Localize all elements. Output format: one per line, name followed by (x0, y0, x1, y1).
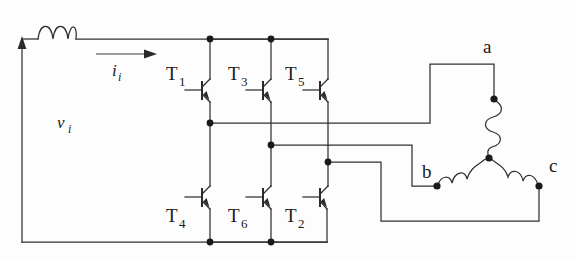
t1-label: T (166, 63, 178, 84)
node-load-terminal-c (535, 182, 542, 189)
node-phase-c-mid (325, 159, 332, 166)
t5-subscript: 5 (298, 74, 305, 89)
schematic-canvas: v i i i T 1 T 3 T 5 T 4 T 6 (0, 0, 577, 262)
load-winding-a (486, 100, 502, 157)
load-winding-c (490, 158, 538, 185)
winding-b-coil (438, 158, 488, 185)
input-current-symbol: i (112, 61, 117, 80)
phase-b-output-wire (271, 145, 437, 186)
circuit-diagram: v i i i T 1 T 3 T 5 T 4 T 6 (0, 0, 577, 262)
t6-subscript: 6 (241, 216, 248, 231)
node-bottom-rail-b (268, 239, 275, 246)
wire-t3-collector-slope (263, 79, 271, 87)
label-switch-t6: T 6 (228, 205, 248, 231)
winding-c-coil (490, 158, 538, 185)
t2-subscript: 2 (298, 216, 305, 231)
t3-label: T (228, 63, 240, 84)
t4-label: T (166, 205, 178, 226)
label-source-voltage: v i (57, 113, 71, 136)
node-top-rail-a (207, 36, 214, 43)
wire-phase-a (210, 64, 494, 123)
t5-label: T (285, 63, 297, 84)
t3-subscript: 3 (241, 74, 248, 89)
phase-c-output-wire (328, 162, 539, 221)
load-winding-b (438, 158, 488, 185)
label-switch-t2: T 2 (285, 205, 305, 231)
wire-t1-collector-slope (202, 79, 210, 87)
phase-a-output-wire (210, 64, 494, 123)
wire-t4-collector-slope (202, 186, 210, 194)
wire-t2-collector-slope (320, 186, 328, 194)
label-switch-t5: T 5 (285, 63, 305, 89)
input-inductor (38, 26, 76, 39)
t4-subscript: 4 (179, 216, 186, 231)
wire-t6-collector-slope (263, 186, 271, 194)
node-load-terminal-b (433, 182, 440, 189)
source-voltage-subscript: i (68, 122, 71, 136)
wye-neutral-node (485, 154, 492, 161)
label-switch-t3: T 3 (228, 63, 248, 89)
inverter-leg-b (246, 39, 271, 242)
winding-a-coil (486, 100, 502, 157)
connection-nodes (207, 36, 543, 246)
input-current-subscript: i (118, 70, 121, 84)
inverter-leg-c (303, 39, 328, 242)
source-voltage-symbol: v (57, 113, 65, 132)
wire-t5-collector-slope (320, 79, 328, 87)
label-switch-t4: T 4 (166, 205, 186, 231)
load-label-a: a (483, 36, 492, 57)
wire-phase-b (271, 145, 437, 186)
voltage-arrow-head-icon (18, 36, 27, 49)
input-current-arrow (96, 50, 157, 59)
load-label-b: b (422, 161, 432, 182)
t6-label: T (228, 205, 240, 226)
load-label-c: c (549, 155, 557, 176)
node-phase-a-mid (207, 120, 214, 127)
wire-phase-c (328, 162, 539, 221)
label-input-current: i i (112, 61, 121, 84)
inductor-coil-arcs (38, 26, 76, 39)
node-bottom-rail-a (207, 239, 214, 246)
inverter-leg-a (185, 39, 210, 242)
node-load-terminal-a (490, 95, 497, 102)
label-switch-t1: T 1 (166, 63, 186, 89)
t1-subscript: 1 (179, 74, 186, 89)
node-top-rail-b (268, 36, 275, 43)
t2-label: T (285, 205, 297, 226)
node-phase-b-mid (268, 142, 275, 149)
current-arrow-head-icon (144, 50, 157, 59)
